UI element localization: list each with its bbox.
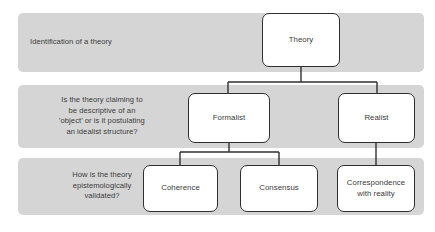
node-realist-label: Realist [361,113,391,123]
node-correspondence-with-reality[interactable]: Correspondence with reality [337,165,415,212]
node-consensus[interactable]: Consensus [240,165,318,212]
node-correspondence-with-reality-label: Correspondence with reality [344,178,408,199]
node-formalist[interactable]: Formalist [188,93,270,143]
node-theory[interactable]: Theory [262,13,340,67]
node-formalist-label: Formalist [210,113,249,123]
node-theory-label: Theory [286,35,317,45]
node-coherence[interactable]: Coherence [143,165,218,212]
node-realist[interactable]: Realist [338,93,415,143]
node-coherence-label: Coherence [158,183,203,193]
node-consensus-label: Consensus [256,183,301,193]
theory-classification-diagram: Identification of a theory Is the theory… [0,0,435,232]
